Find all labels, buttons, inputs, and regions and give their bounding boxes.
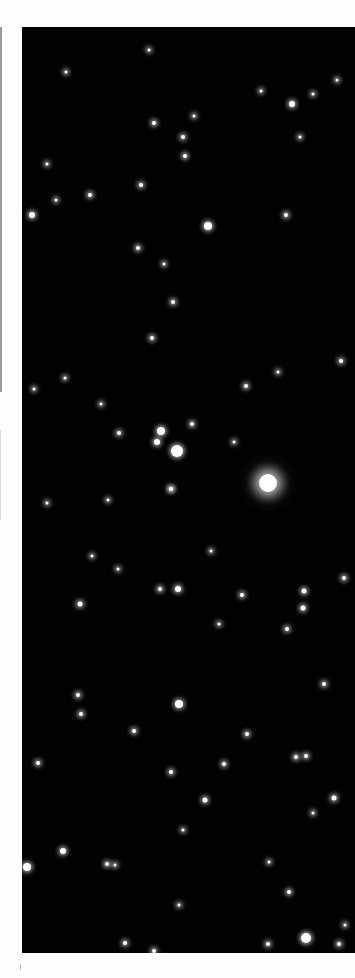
star-icon [136,246,140,250]
star-icon [152,949,156,953]
star-icon [36,761,40,765]
star-icon [79,712,83,716]
star-icon [154,439,160,445]
star-icon [105,862,109,866]
star-icon [178,904,181,907]
star-icon [190,422,194,426]
star-icon [342,576,346,580]
star-icon [240,593,244,597]
star-icon [203,798,208,803]
star-icon [107,499,110,502]
star-icon [244,384,248,388]
star-icon [55,199,58,202]
star-icon [204,222,212,230]
star-icon [100,403,103,406]
star-icon [65,71,68,74]
star-icon [158,587,162,591]
star-icon [76,693,80,697]
star-icon [285,627,289,631]
star-icon [299,136,302,139]
star-icon [60,848,66,854]
star-icon [132,729,136,733]
star-icon [181,135,185,139]
star-icon [312,93,315,96]
star-icon [336,79,339,82]
star-icon [301,606,306,611]
bright-star-icon [259,474,277,492]
star-icon [277,371,280,374]
star-icon [88,193,92,197]
star-icon [157,427,165,435]
star-icon [117,568,120,571]
bottom-margin-mark [20,964,21,970]
star-icon [268,861,271,864]
star-icon [33,388,36,391]
star-icon [169,770,173,774]
star-icon [284,213,288,217]
star-icon [222,762,226,766]
star-icon [171,300,175,304]
star-icon [114,864,117,867]
star-icon [233,441,236,444]
star-icon [182,829,185,832]
star-icon [117,431,121,435]
star-icon [163,263,166,266]
star-icon [91,555,94,558]
star-icon [148,49,151,52]
star-icon [287,890,291,894]
star-icon [289,101,295,107]
star-icon [170,488,173,491]
star-icon [46,502,49,505]
star-icon [64,377,67,380]
star-icon [29,212,35,218]
star-icon [175,700,183,708]
star-icon [294,755,298,759]
star-icon [302,589,307,594]
star-icon [23,863,31,871]
star-icon [332,796,337,801]
star-icon [175,586,181,592]
photo-page [0,0,355,978]
star-field-image [22,27,355,953]
star-icon [193,115,196,118]
star-icon [322,682,326,686]
star-icon [301,933,311,943]
star-icon [218,623,221,626]
star-icon [183,154,187,158]
star-icon [245,732,249,736]
star-icon [337,942,341,946]
star-icon [304,754,308,758]
star-icon [139,183,143,187]
star-icon [123,941,127,945]
star-icon [152,121,156,125]
star-icon [46,163,49,166]
star-icon [266,942,270,946]
star-icon [150,336,154,340]
star-icon [344,924,347,927]
star-icon [78,602,83,607]
star-icon [210,550,213,553]
left-edge-strip [0,27,2,392]
star-icon [312,812,315,815]
star-icon [260,90,263,93]
star-icon [171,445,183,457]
star-icon [339,359,343,363]
left-edge-strip-lower [0,430,1,520]
